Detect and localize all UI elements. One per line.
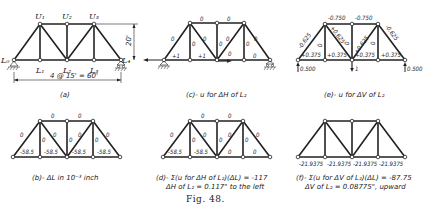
unit-load-value: 1 — [355, 65, 358, 72]
member-force-U1U2: 0 — [200, 15, 204, 22]
panel-f-caption-line1: (f)- Σ(u for ΔV of L₂)(ΔL) = -87.75 — [296, 174, 412, 182]
node-label-U2: U₂ — [62, 12, 72, 21]
member-force-U1L1: 0 — [42, 136, 46, 143]
member-force-U1L2: 0 — [53, 131, 57, 138]
member-force-U1L2: 0 — [203, 35, 207, 42]
member-force-L1L2: -21.9375 — [327, 160, 352, 167]
member-force-L3L4: -58.5 — [97, 148, 112, 155]
member-force-L2L3: 0 — [228, 50, 232, 57]
member-force-L2L3: -21.9375 — [353, 160, 378, 167]
member-force-U2L2: 0 — [219, 40, 223, 47]
member-force-L2L3: +0.375 — [355, 51, 376, 58]
panel-f-caption-line2: ΔV of L₂ = 0.08775", upward — [304, 183, 406, 191]
member-force-U1U2: 0 — [201, 112, 205, 119]
panel-c-virtual-horizontal: 0 0 0 0 0 0 0 0 0 +1 +1 0 0 (c)- u for Δ… — [143, 15, 276, 99]
reaction-arrow-left-icon — [143, 58, 162, 62]
span-dimension-label: 4 @ 15' = 60' — [50, 72, 98, 80]
member-force-U3L4: 0 — [254, 35, 258, 42]
pin-support-icon — [158, 61, 170, 69]
member-force-U3L3: 0 — [369, 41, 376, 45]
member-force-L0U1: 0 — [170, 131, 174, 138]
panel-e-caption: (e)- u for ΔV of L₂ — [324, 91, 385, 99]
node-label-U1: U₁ — [35, 12, 45, 21]
member-force-U3L4: -0.625 — [384, 23, 400, 42]
node-label-U3: U₃ — [89, 12, 99, 21]
member-force-U2U3: 0 — [78, 112, 82, 119]
member-force-L1L2: +0.375 — [327, 51, 348, 58]
panel-d-caption-line2: ΔH of L₂ = 0.117" to the left — [165, 183, 264, 191]
member-force-L2U3: 0 — [78, 131, 82, 138]
panel-b-member-elongations: 0 0 0 0 0 0 0 0 0 -58.5 -58.5 -58.5 -58.… — [11, 112, 122, 182]
figure-number: Fig. 48. — [186, 194, 225, 204]
member-force-U2L2: 0 — [219, 136, 223, 143]
panel-c-caption: (c)- u for ΔH of L₂ — [186, 91, 247, 99]
panel-d-caption-line1: (d)- Σ(u for ΔH of L₂)(ΔL) = -117 — [156, 174, 268, 182]
member-force-L0U1: 0 — [20, 131, 24, 138]
member-force-L1L2: -58.5 — [194, 148, 209, 155]
member-force-U1L1: 0 — [192, 136, 196, 143]
member-force-U1U2: 0 — [51, 112, 55, 119]
node-label-L4: L₄ — [121, 56, 131, 65]
member-force-L0L1: +0.375 — [301, 51, 322, 58]
member-force-L2U3: 0 — [226, 35, 230, 42]
member-force-L0L1: -21.9375 — [299, 160, 324, 167]
unit-load-arrow-down-icon — [350, 62, 354, 72]
member-force-U3L3: 0 — [95, 136, 99, 143]
member-force-U3L4: 0 — [106, 131, 110, 138]
panel-a-caption: (a) — [60, 91, 70, 99]
span-dimension: 4 @ 15' = 60' — [14, 72, 121, 83]
member-force-U1U2: -0.750 — [328, 14, 346, 21]
member-force-L3L4: -21.9375 — [379, 160, 404, 167]
member-force-L2U3: 0 — [228, 131, 232, 138]
figure-48: L₀ L₁ L₂ L₃ L₄ U₁ U₂ U₃ 4 @ 15' = 60' 20… — [0, 0, 425, 211]
member-force-U1L1: 0 — [192, 40, 196, 47]
panel-b-caption: (b)- ΔL in 10⁻³ inch — [32, 174, 98, 182]
member-force-U3L4: 0 — [256, 131, 260, 138]
node-label-L0: L₀ — [0, 56, 10, 65]
member-force-L3L4: 0 — [253, 148, 257, 155]
panel-d-horizontal-deflection: 0 0 0 0 0 0 0 0 0 -58.5 -58.5 0 0 (d)- Σ… — [156, 112, 272, 191]
member-force-L0L1: -58.5 — [20, 148, 35, 155]
member-force-U1L1: 0 — [316, 43, 323, 47]
member-force-U3L3: 0 — [246, 40, 250, 47]
member-force-L2L3: 0 — [228, 148, 232, 155]
member-force-U1L2: 0 — [203, 131, 207, 138]
member-force-L3L4: +0.375 — [381, 51, 402, 58]
reaction-left-value: 0.500 — [300, 65, 316, 72]
member-force-L3L4: 0 — [253, 52, 257, 59]
member-force-L0L1: +1 — [172, 52, 180, 59]
member-force-U2U3: 0 — [228, 112, 232, 119]
member-force-L1L2: +1 — [198, 52, 206, 59]
panel-e-virtual-vertical: 0.500 0.500 1 -0.750 -0.750 -0.625 0 +0.… — [296, 14, 423, 99]
node-label-L1: L₁ — [35, 66, 45, 75]
member-force-U3L3: 0 — [245, 136, 249, 143]
reaction-right-value: 0.500 — [407, 65, 423, 72]
panel-a-truss-geometry: L₀ L₁ L₂ L₃ L₄ U₁ U₂ U₃ 4 @ 15' = 60' 20… — [0, 12, 138, 99]
roller-support-icon — [264, 61, 276, 70]
member-force-L0L1: -58.5 — [168, 148, 183, 155]
member-force-L2L3: -58.5 — [72, 148, 87, 155]
height-dimension-label: 20' — [125, 35, 133, 46]
member-force-U2U3: -0.750 — [355, 14, 373, 21]
member-force-U2L2: 0 — [69, 136, 73, 143]
member-force-U2L2: 0 — [343, 41, 350, 45]
member-force-L0U1: -0.625 — [296, 31, 312, 50]
member-force-L1L2: -58.5 — [44, 148, 59, 155]
member-force-L0U1: 0 — [171, 35, 175, 42]
member-force-U2U3: 0 — [227, 15, 231, 22]
panel-f-vertical-deflection: -21.9375 -21.9375 -21.9375 -21.9375 (f)-… — [296, 119, 412, 191]
